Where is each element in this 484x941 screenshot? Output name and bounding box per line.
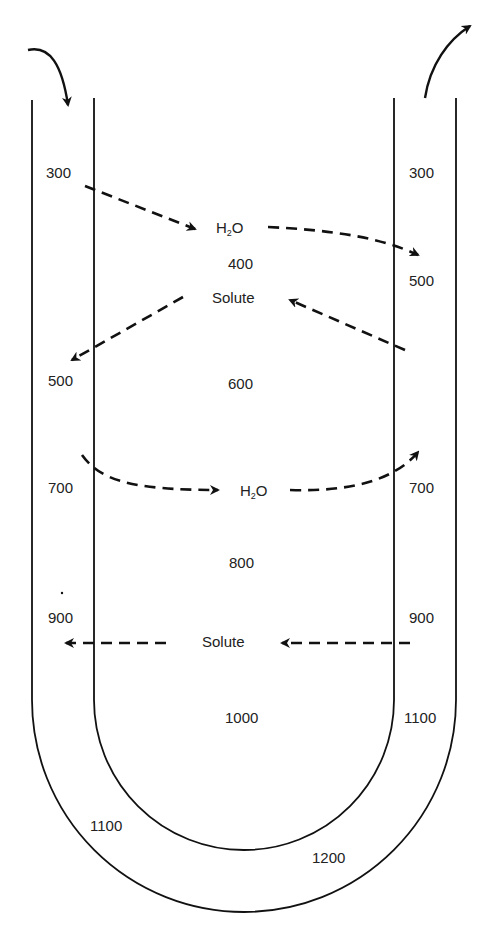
inner-tube-wall [94,98,394,850]
outer-tube-wall [32,98,456,912]
descending-value: 700 [48,480,73,495]
interstitial-value: 600 [228,376,253,391]
h2o-arrow-top-in [85,186,195,229]
solute-arrow-top-in [290,300,405,350]
descending-value: 1100 [90,818,122,833]
inflow-arrow-icon [28,49,68,105]
solute-label-top: Solute [212,290,255,305]
descending-value: 900 [48,610,73,625]
solute-label-bottom: Solute [202,634,245,649]
loop-diagram [0,0,484,941]
h2o-label-top: H2O [216,220,244,238]
ascending-value: 900 [409,610,434,625]
h2o-arrow-mid-out [290,452,418,490]
h2o-arrow-mid-in [82,455,218,490]
ascending-value: 1100 [404,710,436,725]
descending-value: 500 [48,373,73,388]
speck [61,592,63,594]
ascending-value: 300 [409,165,434,180]
interstitial-value: 400 [228,256,253,271]
interstitial-value: 1200 [312,850,345,865]
h2o-arrow-top-out [268,227,418,255]
solute-arrow-top-out [72,297,183,360]
descending-value: 300 [46,165,71,180]
outflow-arrow-icon [425,26,470,98]
h2o-label-mid: H2O [240,483,268,501]
ascending-value: 500 [409,273,434,288]
interstitial-value: 1000 [225,710,258,725]
interstitial-value: 800 [229,555,254,570]
ascending-value: 700 [409,480,434,495]
